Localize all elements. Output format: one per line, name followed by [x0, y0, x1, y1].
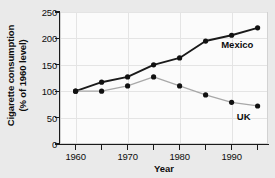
y-axis-tick-mark: [55, 91, 59, 92]
x-axis-title: Year: [60, 163, 268, 174]
gridline-horizontal: [61, 12, 267, 13]
y-axis-tick-label: 150: [30, 59, 57, 70]
y-axis-tick-label: 250: [30, 7, 57, 18]
y-axis-tick-mark: [55, 143, 59, 144]
x-axis-tick-label: 1960: [65, 151, 85, 162]
gridline-vertical: [232, 13, 233, 143]
x-axis-tick-mark: [257, 145, 258, 150]
x-axis-tick-mark: [205, 145, 206, 150]
y-axis-tick-mark: [55, 117, 59, 118]
y-axis-line: [59, 11, 60, 145]
y-axis-tick-mark: [55, 11, 59, 12]
y-axis-tick-label: 200: [30, 33, 57, 44]
series-label-uk: UK: [237, 111, 251, 122]
gridline-vertical: [76, 13, 77, 143]
y-axis-tick-label: 100: [30, 86, 57, 97]
x-axis-tick-mark: [179, 145, 180, 150]
cigarette-consumption-line-chart: Cigarette consumption (% of 1960 level) …: [0, 0, 275, 178]
y-axis-title: Cigarette consumption (% of 1960 level): [0, 0, 34, 150]
x-axis-tick-label: 1980: [169, 151, 189, 162]
series-label-mexico: Mexico: [221, 39, 253, 50]
y-axis-tick-label: 50: [30, 112, 57, 123]
x-axis-tick-label: 1970: [117, 151, 137, 162]
plot-area: [60, 12, 268, 144]
gridline-vertical: [180, 13, 181, 143]
x-axis-tick-label: 1990: [221, 151, 241, 162]
x-axis-tick-mark: [153, 145, 154, 150]
y-axis-tick-mark: [55, 64, 59, 65]
y-axis-tick-label: 0: [30, 139, 57, 150]
x-axis-tick-mark: [101, 145, 102, 150]
x-axis-tick-mark: [231, 145, 232, 150]
y-axis-tick-labels: 050100150200250: [30, 0, 57, 178]
y-axis-title-line2: (% of 1960 level): [17, 24, 29, 125]
gridline-horizontal: [61, 91, 267, 92]
x-axis-tick-mark: [75, 145, 76, 150]
y-axis-tick-mark: [55, 38, 59, 39]
y-axis-title-line1: Cigarette consumption: [6, 24, 18, 125]
x-axis-line: [59, 144, 269, 145]
gridline-vertical: [128, 13, 129, 143]
gridline-horizontal: [61, 65, 267, 66]
x-axis-tick-mark: [127, 145, 128, 150]
